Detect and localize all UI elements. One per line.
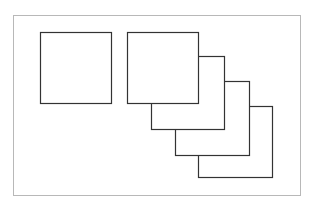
single-square — [41, 33, 112, 104]
squares-diagram — [0, 0, 317, 200]
stacked-square-1 — [128, 33, 199, 104]
stacked-squares-group — [128, 33, 273, 178]
